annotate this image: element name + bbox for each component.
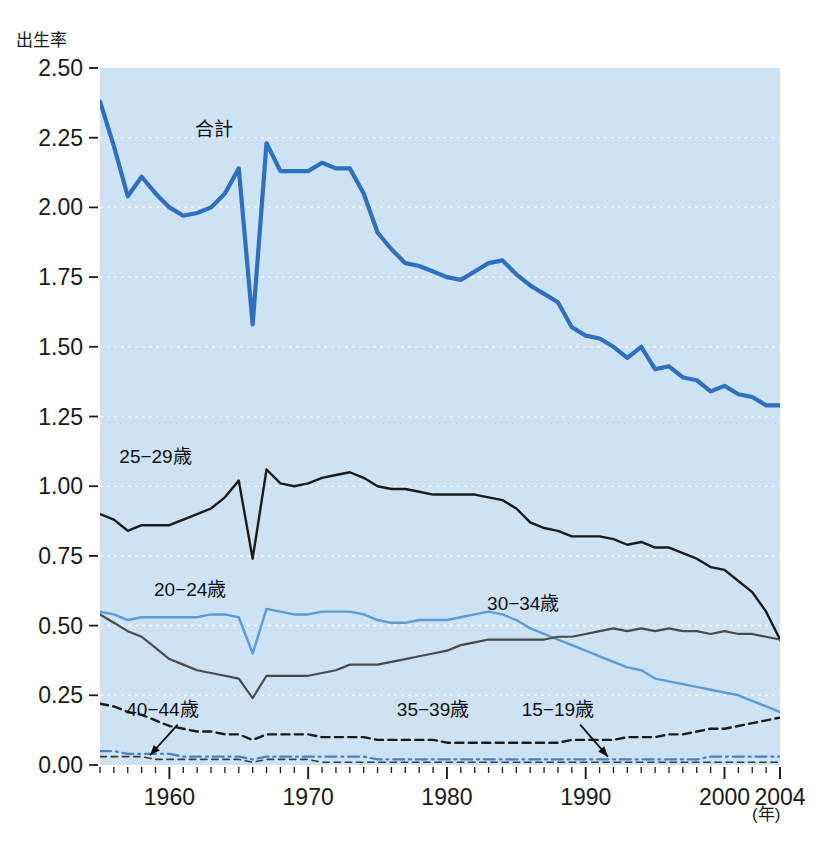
series-label-35-39歳: 35−39歳 xyxy=(397,699,469,720)
x-tick-label: 1970 xyxy=(283,784,334,810)
x-tick-label: 1990 xyxy=(560,784,611,810)
series-label-25-29歳: 25−29歳 xyxy=(119,446,191,467)
y-tick-labels: 0.000.250.500.751.001.251.501.752.002.25… xyxy=(38,55,83,778)
series-label-30-34歳: 30−34歳 xyxy=(487,593,559,614)
y-tick-marks xyxy=(89,68,98,765)
series-label-20-24歳: 20−24歳 xyxy=(154,579,226,600)
faint-page-header xyxy=(0,0,836,14)
series-label-40-44歳: 40−44歳 xyxy=(126,699,198,720)
series-label-15-19歳: 15−19歳 xyxy=(522,699,594,720)
x-tick-label: 2000 xyxy=(699,784,750,810)
y-tick-label: 1.75 xyxy=(38,264,83,290)
x-axis-title: (年) xyxy=(752,800,780,825)
y-tick-label: 1.50 xyxy=(38,334,83,360)
y-tick-label: 0.25 xyxy=(38,682,83,708)
faint-page-footer xyxy=(0,832,836,850)
series-label-合計: 合計 xyxy=(195,119,233,140)
y-axis-title: 出生率 xyxy=(16,26,67,51)
y-tick-label: 0.75 xyxy=(38,543,83,569)
chart-canvas: 0.000.250.500.751.001.251.501.752.002.25… xyxy=(0,0,836,850)
x-tick-labels: 196019701980199020002004 xyxy=(144,784,806,810)
x-tick-label: 1960 xyxy=(144,784,195,810)
y-tick-label: 2.25 xyxy=(38,125,83,151)
plot-background xyxy=(100,68,780,765)
x-tick-label: 1980 xyxy=(421,784,472,810)
x-tick-marks xyxy=(100,767,780,779)
y-tick-label: 1.00 xyxy=(38,473,83,499)
y-tick-label: 2.50 xyxy=(38,55,83,81)
y-tick-label: 1.25 xyxy=(38,404,83,430)
y-tick-label: 0.00 xyxy=(38,752,83,778)
y-tick-label: 0.50 xyxy=(38,613,83,639)
y-tick-label: 2.00 xyxy=(38,194,83,220)
birth-rate-chart-figure: 出生率 (年) 0.000.250.500.751.001.251.501.75… xyxy=(0,0,836,850)
